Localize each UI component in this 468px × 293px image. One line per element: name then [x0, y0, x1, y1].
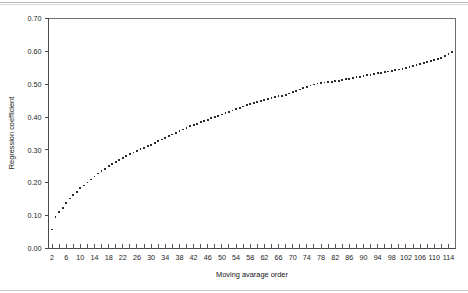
- data-point: [58, 211, 60, 213]
- data-point: [380, 72, 382, 74]
- data-point: [214, 116, 216, 118]
- data-point: [239, 107, 241, 109]
- data-point: [426, 61, 428, 63]
- data-point: [62, 207, 64, 209]
- x-axis-tick-label: 102: [400, 253, 412, 262]
- data-point: [182, 129, 184, 131]
- y-axis-tick-labels: 0.000.100.200.300.400.500.600.70: [28, 14, 42, 253]
- data-point: [122, 157, 124, 159]
- data-point: [348, 78, 350, 80]
- data-point: [203, 120, 205, 122]
- x-axis-tick-label: 62: [260, 253, 268, 262]
- x-axis-tick-label: 74: [303, 253, 311, 262]
- data-point: [363, 75, 365, 77]
- x-axis-tick-labels: 2610141822263034384246505458626670747882…: [50, 253, 454, 262]
- data-point: [51, 229, 53, 231]
- data-point: [398, 69, 400, 71]
- data-point: [65, 202, 67, 204]
- data-point: [306, 86, 308, 88]
- y-axis-tick-label: 0.60: [28, 47, 42, 56]
- data-point: [125, 155, 127, 157]
- data-point: [140, 148, 142, 150]
- data-point: [366, 74, 368, 76]
- x-axis-tick-label: 2: [50, 253, 54, 262]
- x-axis-tick-label: 66: [275, 253, 283, 262]
- data-point: [189, 125, 191, 127]
- data-point: [207, 119, 209, 121]
- data-point: [341, 79, 343, 81]
- data-point: [90, 179, 92, 181]
- plot-axes: [49, 19, 456, 249]
- data-point: [143, 147, 145, 149]
- x-axis-ticks: [52, 244, 448, 249]
- y-axis-tick-label: 0.00: [28, 244, 42, 253]
- x-axis-title: Moving avarage order: [216, 270, 288, 279]
- data-point: [302, 87, 304, 89]
- x-axis-tick-label: 54: [232, 253, 240, 262]
- data-point: [352, 77, 354, 79]
- data-point: [288, 93, 290, 95]
- y-axis-tick-label: 0.20: [28, 178, 42, 187]
- data-point: [448, 53, 450, 55]
- y-axis-tick-label: 0.70: [28, 14, 42, 23]
- data-point: [263, 99, 265, 101]
- x-axis-tick-label: 34: [161, 253, 169, 262]
- data-point: [115, 161, 117, 163]
- data-series-points: [51, 51, 453, 230]
- data-point: [232, 110, 234, 112]
- data-point: [129, 153, 131, 155]
- x-axis-tick-label: 26: [133, 253, 141, 262]
- data-point: [193, 124, 195, 126]
- data-point: [356, 76, 358, 78]
- data-point: [246, 104, 248, 106]
- x-axis-tick-label: 94: [374, 253, 382, 262]
- data-point: [225, 112, 227, 114]
- data-point: [274, 96, 276, 98]
- x-axis-tick-label: 38: [175, 253, 183, 262]
- data-point: [94, 176, 96, 178]
- x-axis-tick-label: 6: [64, 253, 68, 262]
- data-point: [324, 82, 326, 84]
- y-axis-ticks: [45, 19, 49, 249]
- data-point: [150, 144, 152, 146]
- y-axis-tick-label: 0.10: [28, 211, 42, 220]
- data-point: [285, 94, 287, 96]
- data-point: [271, 97, 273, 99]
- data-point: [154, 142, 156, 144]
- data-point: [228, 111, 230, 113]
- data-point: [359, 76, 361, 78]
- data-point: [235, 108, 237, 110]
- data-point: [334, 80, 336, 82]
- data-point: [55, 216, 57, 218]
- plot-box-outline: [49, 19, 456, 249]
- x-axis-tick-label: 14: [91, 253, 99, 262]
- data-point: [161, 139, 163, 141]
- x-axis-tick-label: 42: [190, 253, 198, 262]
- plot-frame: [49, 19, 456, 249]
- data-point: [168, 135, 170, 137]
- data-point: [249, 103, 251, 105]
- data-point: [210, 117, 212, 119]
- data-point: [402, 68, 404, 70]
- data-point: [72, 194, 74, 196]
- data-point: [200, 121, 202, 123]
- data-point: [87, 182, 89, 184]
- x-axis-tick-label: 22: [119, 253, 127, 262]
- data-point: [108, 165, 110, 167]
- data-point: [260, 100, 262, 102]
- data-point: [97, 173, 99, 175]
- y-axis-tick-label: 0.40: [28, 113, 42, 122]
- data-point: [83, 185, 85, 187]
- data-point: [147, 145, 149, 147]
- data-point: [281, 95, 283, 97]
- data-point: [157, 140, 159, 142]
- data-point: [370, 74, 372, 76]
- data-point: [437, 58, 439, 60]
- data-point: [101, 170, 103, 172]
- data-point: [384, 71, 386, 73]
- x-axis-tick-label: 114: [443, 253, 454, 262]
- data-point: [118, 159, 120, 161]
- data-point: [133, 152, 135, 154]
- data-point: [430, 60, 432, 62]
- data-point: [221, 114, 223, 116]
